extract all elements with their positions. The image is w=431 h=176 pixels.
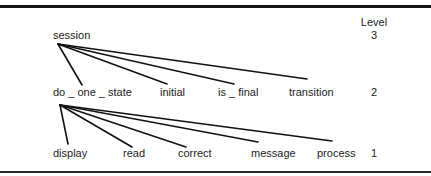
node-display: display xyxy=(53,147,87,160)
edge-session-is-final xyxy=(58,44,234,84)
edge-session-transition xyxy=(58,44,307,79)
node-transition: transition xyxy=(289,86,334,99)
level-1-label: 1 xyxy=(359,147,389,160)
bottom-border-rule xyxy=(0,171,431,173)
edge-session-initial xyxy=(58,44,167,84)
node-session: session xyxy=(53,29,90,42)
level-3-label: 3 xyxy=(359,29,389,42)
edge-session-do-one-state xyxy=(58,44,82,85)
node-process: process xyxy=(317,147,356,160)
edge-do-one-state-process xyxy=(60,105,332,141)
edge-do-one-state-message xyxy=(60,105,258,142)
node-correct: correct xyxy=(178,147,212,160)
node-initial: initial xyxy=(160,86,185,99)
node-do-one-state: do _ one _ state xyxy=(53,86,132,99)
edge-do-one-state-display xyxy=(60,105,68,144)
node-is-final: is _ final xyxy=(218,86,258,99)
node-read: read xyxy=(123,147,145,160)
edge-do-one-state-correct xyxy=(60,105,186,147)
level-column-header: Level xyxy=(359,16,389,29)
node-message: message xyxy=(251,147,296,160)
level-2-label: 2 xyxy=(359,86,389,99)
